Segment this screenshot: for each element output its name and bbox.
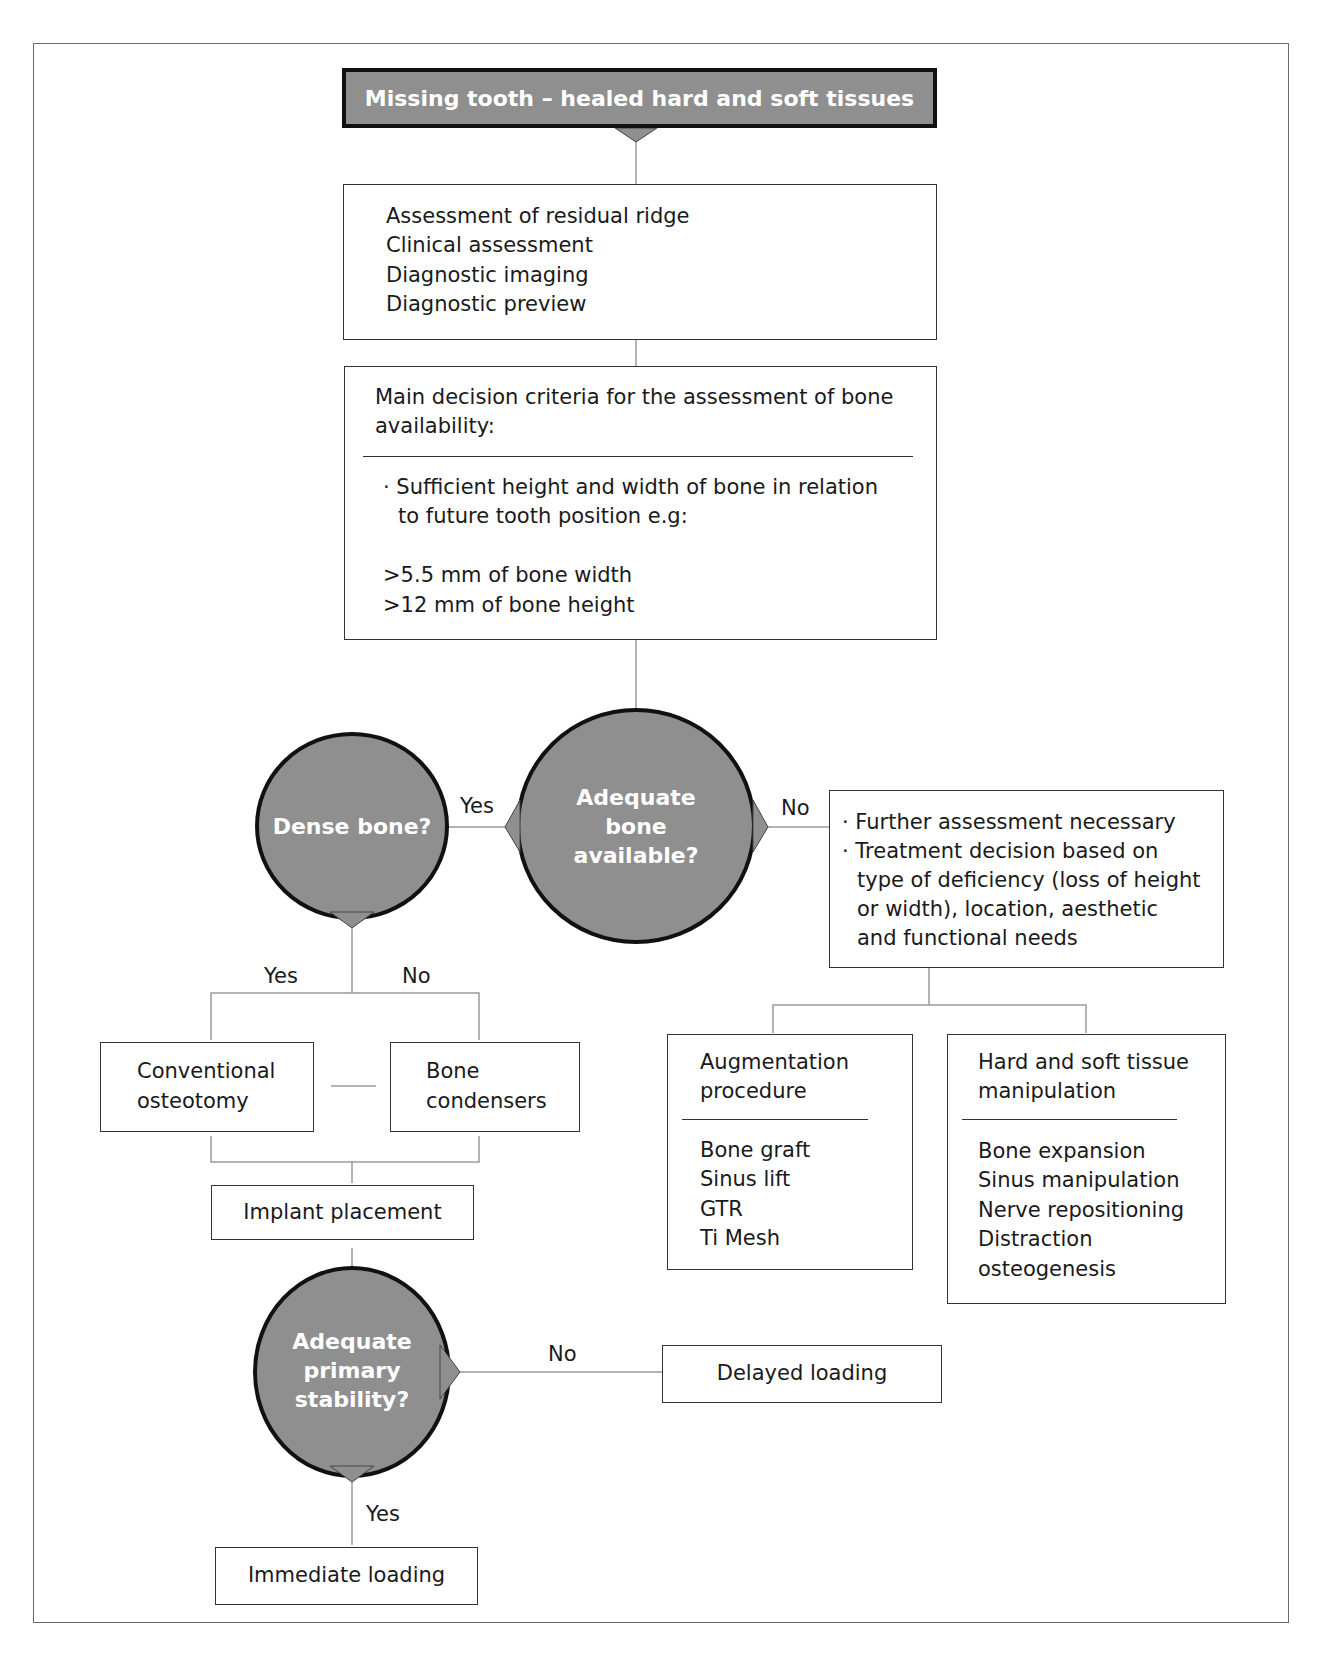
dense-bone-decision: Dense bone? bbox=[262, 812, 442, 841]
delayed-loading-box: Delayed loading bbox=[662, 1345, 942, 1403]
criteria-heading: Main decision criteria for the assessmen… bbox=[375, 383, 893, 413]
decision-text: Dense bone? bbox=[262, 812, 442, 841]
criteria-heading: availability: bbox=[375, 412, 495, 442]
bone-no-label: No bbox=[781, 796, 810, 820]
stability-no-label: No bbox=[548, 1342, 577, 1366]
decision-text: stability? bbox=[262, 1385, 442, 1414]
criteria-bullet: · Sufficient height and width of bone in… bbox=[383, 473, 878, 503]
manipulation-item: Bone expansion bbox=[978, 1137, 1146, 1167]
further-line: · Further assessment necessary bbox=[842, 808, 1176, 838]
manipulation-item: Distraction bbox=[978, 1225, 1092, 1255]
bone-yes-label: Yes bbox=[460, 794, 494, 818]
further-assessment-box: · Further assessment necessary · Treatme… bbox=[829, 790, 1224, 968]
manipulation-divider bbox=[962, 1119, 1177, 1120]
stability-decision: Adequate primary stability? bbox=[262, 1327, 442, 1414]
further-line: · Treatment decision based on bbox=[842, 837, 1158, 867]
augmentation-heading: Augmentation bbox=[700, 1048, 849, 1078]
decision-text: available? bbox=[536, 841, 736, 870]
further-line: and functional needs bbox=[857, 924, 1078, 954]
start-node-label: Missing tooth – healed hard and soft tis… bbox=[365, 86, 914, 111]
assessment-item: Diagnostic imaging bbox=[386, 261, 589, 291]
condensers-line: condensers bbox=[426, 1087, 547, 1117]
dense-no-label: No bbox=[402, 964, 431, 988]
implant-placement-box: Implant placement bbox=[211, 1185, 474, 1240]
manipulation-heading: manipulation bbox=[978, 1077, 1116, 1107]
augmentation-heading: procedure bbox=[700, 1077, 807, 1107]
immediate-loading-box: Immediate loading bbox=[215, 1547, 478, 1605]
bone-available-decision: Adequate bone available? bbox=[536, 783, 736, 870]
augmentation-box: Augmentation procedure Bone graft Sinus … bbox=[667, 1034, 913, 1270]
assessment-item: Diagnostic preview bbox=[386, 290, 586, 320]
further-line: type of deficiency (loss of height bbox=[857, 866, 1201, 896]
decision-text: Adequate bbox=[536, 783, 736, 812]
stability-yes-label: Yes bbox=[366, 1502, 400, 1526]
manipulation-item: Sinus manipulation bbox=[978, 1166, 1179, 1196]
augmentation-item: Bone graft bbox=[700, 1136, 810, 1166]
manipulation-heading: Hard and soft tissue bbox=[978, 1048, 1189, 1078]
augmentation-divider bbox=[682, 1119, 868, 1120]
criteria-bullet: to future tooth position e.g: bbox=[398, 502, 688, 532]
immediate-label: Immediate loading bbox=[248, 1561, 445, 1591]
conventional-line: osteotomy bbox=[137, 1087, 249, 1117]
criteria-divider bbox=[363, 456, 913, 457]
manipulation-item: Nerve repositioning bbox=[978, 1196, 1184, 1226]
dense-yes-label: Yes bbox=[264, 964, 298, 988]
start-node: Missing tooth – healed hard and soft tis… bbox=[342, 68, 937, 128]
manipulation-box: Hard and soft tissue manipulation Bone e… bbox=[947, 1034, 1226, 1304]
implant-label: Implant placement bbox=[243, 1198, 441, 1228]
assessment-item: Clinical assessment bbox=[386, 231, 593, 261]
assessment-box: Assessment of residual ridge Clinical as… bbox=[343, 184, 937, 340]
manipulation-item: osteogenesis bbox=[978, 1255, 1116, 1285]
decision-text: Adequate bbox=[262, 1327, 442, 1356]
condensers-line: Bone bbox=[426, 1057, 479, 1087]
augmentation-item: Sinus lift bbox=[700, 1165, 790, 1195]
further-line: or width), location, aesthetic bbox=[857, 895, 1158, 925]
augmentation-item: GTR bbox=[700, 1195, 743, 1225]
decision-text: primary bbox=[262, 1356, 442, 1385]
criteria-width: >5.5 mm of bone width bbox=[383, 561, 632, 591]
criteria-box: Main decision criteria for the assessmen… bbox=[344, 366, 937, 640]
assessment-item: Assessment of residual ridge bbox=[386, 202, 690, 232]
decision-text: bone bbox=[536, 812, 736, 841]
bone-condensers-box: Bone condensers bbox=[390, 1042, 580, 1132]
criteria-height: >12 mm of bone height bbox=[383, 591, 635, 621]
conventional-osteotomy-box: Conventional osteotomy bbox=[100, 1042, 314, 1132]
delayed-label: Delayed loading bbox=[717, 1359, 888, 1389]
augmentation-item: Ti Mesh bbox=[700, 1224, 780, 1254]
conventional-line: Conventional bbox=[137, 1057, 275, 1087]
